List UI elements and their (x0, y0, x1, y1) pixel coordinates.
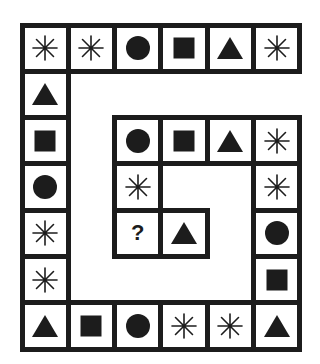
puzzle-cell-square (161, 25, 207, 71)
puzzle-cell-circle (115, 118, 161, 164)
puzzle-cell-asterisk (161, 303, 207, 349)
triangle-icon (32, 315, 58, 337)
puzzle-cell-triangle (207, 25, 253, 71)
puzzle-cell-asterisk (22, 210, 68, 256)
triangle-icon (171, 222, 197, 244)
circle-icon (126, 129, 150, 153)
puzzle-cell-question: ? (115, 210, 161, 256)
puzzle-cell-asterisk (22, 25, 68, 71)
puzzle-cell-square (22, 118, 68, 164)
circle-icon (126, 314, 150, 338)
puzzle-cell-square (68, 303, 114, 349)
asterisk-icon (32, 267, 58, 293)
puzzle-cell-asterisk (254, 25, 300, 71)
asterisk-icon (264, 174, 290, 200)
square-icon (174, 38, 195, 59)
circle-icon (33, 175, 57, 199)
triangle-icon (32, 83, 58, 105)
asterisk-icon (264, 35, 290, 61)
puzzle-cell-asterisk (22, 257, 68, 303)
asterisk-icon (32, 220, 58, 246)
puzzle-cell-asterisk (254, 164, 300, 210)
triangle-icon (264, 315, 290, 337)
triangle-icon (217, 37, 243, 59)
asterisk-icon (217, 313, 243, 339)
asterisk-icon (171, 313, 197, 339)
question-mark: ? (131, 222, 144, 244)
puzzle-cell-triangle (22, 303, 68, 349)
puzzle-cell-asterisk (207, 303, 253, 349)
puzzle-cell-asterisk (68, 25, 114, 71)
square-icon (81, 315, 102, 336)
puzzle-cell-triangle (161, 210, 207, 256)
square-icon (35, 130, 56, 151)
puzzle-cell-square (161, 118, 207, 164)
puzzle-cell-circle (115, 303, 161, 349)
puzzle-cell-circle (22, 164, 68, 210)
asterisk-icon (125, 174, 151, 200)
puzzle-cell-triangle (207, 118, 253, 164)
square-icon (266, 269, 287, 290)
triangle-icon (217, 130, 243, 152)
puzzle-cell-asterisk (115, 164, 161, 210)
puzzle-cell-square (254, 257, 300, 303)
puzzle-cell-circle (115, 25, 161, 71)
circle-icon (265, 221, 289, 245)
circle-icon (126, 36, 150, 60)
puzzle-cell-triangle (254, 303, 300, 349)
square-icon (174, 130, 195, 151)
asterisk-icon (264, 128, 290, 154)
puzzle-cell-circle (254, 210, 300, 256)
puzzle-cell-asterisk (254, 118, 300, 164)
question-mark-label: ? (131, 222, 144, 244)
asterisk-icon (32, 35, 58, 61)
puzzle-cell-triangle (22, 71, 68, 117)
asterisk-icon (78, 35, 104, 61)
